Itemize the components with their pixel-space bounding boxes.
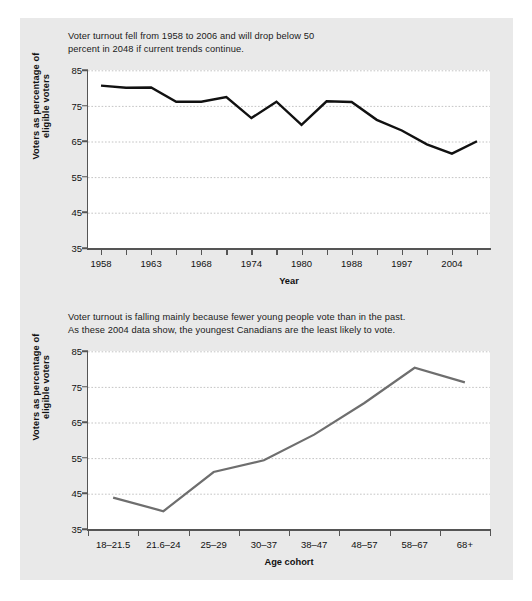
chart-voter-turnout-by-age-cohort: Voter turnout is falling mainly because … <box>20 299 513 580</box>
x-tick-mark <box>440 530 441 536</box>
y-axis-title: Voters as percentage of eligible voters <box>31 41 51 171</box>
y-tick-label: 55 <box>58 171 82 182</box>
x-tick-label: 58–67 <box>401 539 427 550</box>
y-tick-label: 45 <box>58 488 82 499</box>
x-tick-label: 68+ <box>457 539 473 550</box>
x-tick-mark <box>138 530 139 536</box>
x-tick-mark <box>151 249 152 255</box>
y-tick-label: 35 <box>58 524 82 535</box>
y-axis-labels: 85 75 65 55 45 35 <box>50 18 82 299</box>
x-tick-label: 30–37 <box>251 539 277 550</box>
x-tick-label: 1997 <box>391 258 412 269</box>
caption-line-2: percent in 2048 if current trends contin… <box>68 43 468 56</box>
x-tick-mark <box>390 530 391 536</box>
y-tick-label: 35 <box>58 243 82 254</box>
y-tick-label: 55 <box>58 452 82 463</box>
y-tick-label: 45 <box>58 207 82 218</box>
chart-caption: Voter turnout is falling mainly because … <box>68 311 468 337</box>
x-tick-mark <box>226 249 227 255</box>
x-tick-mark <box>402 249 403 255</box>
x-tick-mark <box>352 249 353 255</box>
plot-svg <box>88 70 490 248</box>
x-tick-label: 1968 <box>191 258 212 269</box>
x-tick-mark <box>101 249 102 255</box>
x-tick-mark <box>477 249 478 255</box>
x-tick-label: 18–21.5 <box>96 539 130 550</box>
y-axis-title: Voters as percentage of eligible voters <box>31 322 51 452</box>
x-tick-label: 1963 <box>141 258 162 269</box>
plot-area <box>88 70 490 248</box>
x-tick-label: 2004 <box>441 258 462 269</box>
figure-panel: Voter turnout fell from 1958 to 2006 and… <box>20 18 513 580</box>
y-tick-label: 65 <box>58 417 82 428</box>
x-tick-label: 25–29 <box>200 539 226 550</box>
caption-line-1: Voter turnout fell from 1958 to 2006 and… <box>68 30 468 43</box>
x-tick-label: 1980 <box>291 258 312 269</box>
x-tick-mark <box>327 249 328 255</box>
caption-line-1: Voter turnout is falling mainly because … <box>68 311 468 324</box>
x-tick-mark <box>126 249 127 255</box>
x-tick-label: 1974 <box>241 258 262 269</box>
x-tick-mark <box>201 249 202 255</box>
x-tick-mark <box>251 249 252 255</box>
y-tick-label: 85 <box>58 346 82 357</box>
x-tick-mark <box>289 530 290 536</box>
x-tick-mark <box>88 530 89 536</box>
y-tick-label: 65 <box>58 136 82 147</box>
plot-area <box>88 351 490 529</box>
x-tick-mark <box>176 249 177 255</box>
y-tick-label: 75 <box>58 100 82 111</box>
x-tick-mark <box>189 530 190 536</box>
x-tick-label: 48–57 <box>351 539 377 550</box>
x-tick-mark <box>427 249 428 255</box>
y-axis-labels: 85 75 65 55 45 35 <box>50 299 82 580</box>
plot-svg <box>88 351 490 529</box>
x-axis-line <box>87 248 491 250</box>
x-tick-mark <box>490 530 491 536</box>
x-tick-mark <box>239 530 240 536</box>
x-tick-label: 1988 <box>341 258 362 269</box>
x-tick-mark <box>452 249 453 255</box>
x-tick-label: 21.6–24 <box>146 539 180 550</box>
data-line-turnout-by-age <box>113 368 465 511</box>
x-tick-mark <box>276 249 277 255</box>
x-tick-mark <box>302 249 303 255</box>
y-tick-label: 85 <box>58 65 82 76</box>
x-tick-label: 1958 <box>90 258 111 269</box>
x-tick-mark <box>377 249 378 255</box>
x-axis-title: Year <box>88 276 490 286</box>
data-line-turnout-by-year <box>101 86 477 154</box>
chart-voter-turnout-by-year: Voter turnout fell from 1958 to 2006 and… <box>20 18 513 299</box>
caption-line-2: As these 2004 data show, the youngest Ca… <box>68 324 468 337</box>
y-tick-label: 75 <box>58 381 82 392</box>
x-tick-label: 38–47 <box>301 539 327 550</box>
x-axis-title: Age cohort <box>88 557 490 567</box>
chart-caption: Voter turnout fell from 1958 to 2006 and… <box>68 30 468 56</box>
x-tick-mark <box>339 530 340 536</box>
